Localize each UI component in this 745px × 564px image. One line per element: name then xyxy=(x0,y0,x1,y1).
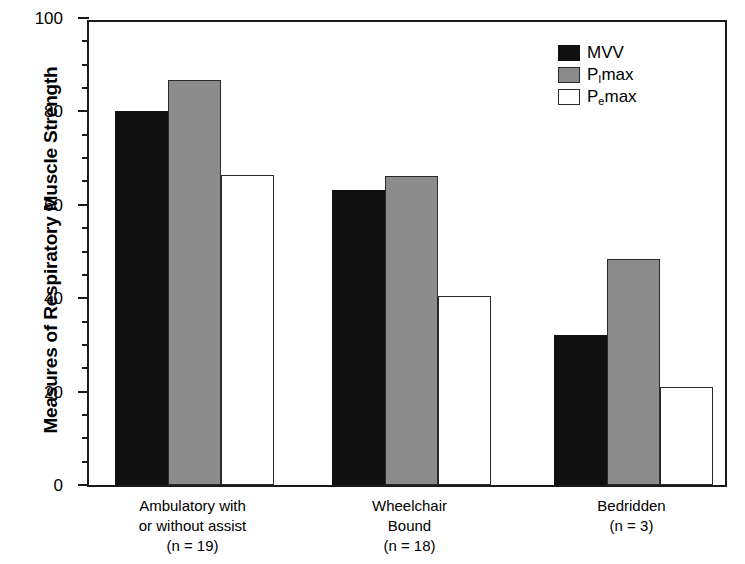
y-tick-minor xyxy=(82,274,89,276)
y-axis-title: Measures of Respiratory Muscle Strength xyxy=(34,0,68,500)
bar-mvv-group-3 xyxy=(554,335,607,485)
x-axis-label-line: Ambulatory with xyxy=(83,496,303,516)
bar-pimax-group-2 xyxy=(385,176,438,485)
x-axis-label-line: (n = 3) xyxy=(522,516,742,536)
x-axis-label-line: Bedridden xyxy=(522,496,742,516)
legend-label-subscript: e xyxy=(598,95,604,107)
y-tick-minor xyxy=(82,64,89,66)
legend-label: Pemax xyxy=(587,87,637,107)
y-tick-minor xyxy=(82,437,89,439)
x-axis-label-line: Bound xyxy=(300,516,520,536)
y-tick-major: 20 xyxy=(78,391,89,393)
legend-item-pimax[interactable]: PImax xyxy=(558,64,678,86)
y-tick-label: 100 xyxy=(23,9,63,29)
bar-pemax-group-2 xyxy=(438,296,491,485)
x-axis-group-label: Bedridden(n = 3) xyxy=(522,496,742,536)
y-tick-minor xyxy=(82,227,89,229)
y-tick-major: 0 xyxy=(78,484,89,486)
bar-chart-figure: Measures of Respiratory Muscle Strength … xyxy=(0,0,745,564)
x-axis-label-line: (n = 18) xyxy=(300,536,520,556)
y-tick-label: 60 xyxy=(23,196,63,216)
bar-pemax-group-3 xyxy=(660,387,713,485)
x-axis-label-line: or without assist xyxy=(83,516,303,536)
bar-pimax-group-1 xyxy=(168,80,221,485)
y-tick-label: 0 xyxy=(23,476,63,496)
legend-label: MVV xyxy=(587,43,624,63)
legend-label-subscript: I xyxy=(598,73,601,85)
bar-mvv-group-2 xyxy=(332,190,385,485)
y-tick-major: 80 xyxy=(78,110,89,112)
legend-swatch-icon xyxy=(558,89,580,105)
x-axis-group-label: WheelchairBound(n = 18) xyxy=(300,496,520,556)
y-tick-minor xyxy=(82,251,89,253)
y-tick-major: 100 xyxy=(78,17,89,19)
y-tick-minor xyxy=(82,87,89,89)
legend-swatch-icon xyxy=(558,67,580,83)
bar-mvv-group-1 xyxy=(115,111,168,485)
y-tick-minor xyxy=(82,344,89,346)
y-tick-label: 40 xyxy=(23,289,63,309)
legend-item-mvv[interactable]: MVV xyxy=(558,42,678,64)
bar-pimax-group-3 xyxy=(607,259,660,485)
x-axis-label-line: (n = 19) xyxy=(83,536,303,556)
y-tick-minor xyxy=(82,180,89,182)
y-tick-major: 40 xyxy=(78,297,89,299)
legend-label: PImax xyxy=(587,65,634,85)
legend-swatch-icon xyxy=(558,45,580,61)
chart-legend: MVVPImaxPemax xyxy=(558,42,678,108)
y-tick-major: 60 xyxy=(78,204,89,206)
y-tick-minor xyxy=(82,414,89,416)
bar-pemax-group-1 xyxy=(221,175,274,485)
y-tick-minor xyxy=(82,321,89,323)
y-tick-minor xyxy=(82,40,89,42)
legend-item-pemax[interactable]: Pemax xyxy=(558,86,678,108)
x-axis-label-line: Wheelchair xyxy=(300,496,520,516)
y-tick-minor xyxy=(82,157,89,159)
x-axis-group-label: Ambulatory withor without assist(n = 19) xyxy=(83,496,303,556)
y-tick-minor xyxy=(82,461,89,463)
y-tick-minor xyxy=(82,367,89,369)
y-tick-label: 80 xyxy=(23,102,63,122)
y-tick-label: 20 xyxy=(23,383,63,403)
y-tick-minor xyxy=(82,134,89,136)
